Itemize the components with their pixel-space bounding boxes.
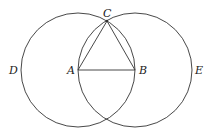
- label-e: E: [194, 64, 203, 77]
- label-a: A: [66, 64, 75, 77]
- euclid-diagram: C A B D E: [0, 0, 213, 138]
- segment-bc: [107, 21, 135, 70]
- point-c-dot: [106, 20, 108, 22]
- label-c: C: [103, 7, 112, 20]
- segment-ac: [78, 21, 107, 70]
- label-d: D: [8, 64, 18, 77]
- label-b: B: [138, 64, 147, 77]
